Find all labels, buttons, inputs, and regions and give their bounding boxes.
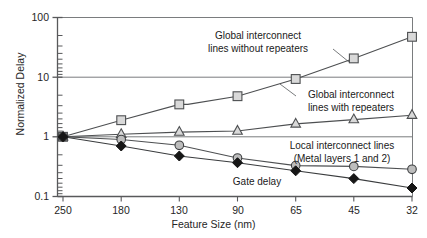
x-tick-label-65: 65 [276,204,316,216]
annotation-global-with-repeaters-line2: lines with repeaters [286,102,416,115]
y-tick-label-100: 100 [15,11,49,23]
x-tick-label-32: 32 [392,204,427,216]
series-markers-triangles [58,110,417,140]
x-tick-label-90: 90 [218,204,258,216]
x-tick-label-45: 45 [334,204,374,216]
annotation-local-interconnect-line2: (Metal layers 1 and 2) [268,153,416,166]
annotation-global-with-repeaters: Global interconnect lines with repeaters [286,89,416,114]
annotation-global-without-repeaters: Global interconnect lines without repeat… [183,30,333,55]
annotation-gate-delay: Gate delay [212,176,302,189]
y-tick-label-0.1: 0.1 [15,190,49,202]
y-minor-ticks [58,36,63,194]
x-tick-label-130: 130 [159,204,199,216]
x-axis-title: Feature Size (nm) [0,218,427,230]
x-major-ticks [63,197,412,202]
series-global-with-repeaters [58,110,417,140]
annotation-gate-delay-line1: Gate delay [212,176,302,189]
x-tick-label-180: 180 [101,204,141,216]
annotation-global-with-repeaters-line1: Global interconnect [286,89,416,102]
y-axis-title: Normalized Delay [14,44,26,144]
annotation-global-without-repeaters-line1: Global interconnect [183,30,333,43]
annotation-global-without-repeaters-line2: lines without repeaters [183,43,333,56]
leader-global-without [333,49,349,62]
x-tick-label-250: 250 [43,204,83,216]
annotation-local-interconnect: Local interconnect lines (Metal layers 1… [268,140,416,165]
annotation-local-interconnect-line1: Local interconnect lines [268,140,416,153]
chart-figure: 100 10 1 0.1 250 180 130 90 65 45 32 Nor… [0,0,427,238]
